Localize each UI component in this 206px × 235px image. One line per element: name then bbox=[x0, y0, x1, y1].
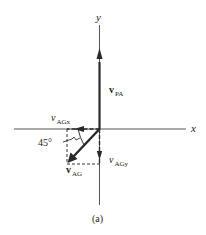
v-ag-symbol: v bbox=[66, 164, 71, 175]
v-agx-label: vAGx bbox=[51, 113, 70, 123]
x-axis-label: x bbox=[191, 123, 196, 134]
v-agy-subscript: AGy bbox=[114, 160, 128, 168]
v-ag-vector bbox=[73, 129, 100, 157]
v-agy-label: vAGy bbox=[109, 155, 128, 165]
v-agx-subscript: AGx bbox=[56, 118, 70, 126]
v-agx-symbol: v bbox=[51, 112, 55, 123]
v-pa-subscript: PA bbox=[115, 90, 123, 98]
velocity-vector-diagram bbox=[0, 0, 206, 235]
v-ag-subscript: AG bbox=[72, 170, 82, 178]
angle-leader-line bbox=[63, 137, 80, 142]
v-agy-arrowhead-icon bbox=[97, 151, 102, 160]
v-pa-arrowhead-icon bbox=[97, 48, 103, 59]
v-pa-symbol: v bbox=[109, 84, 114, 95]
angle-label: 45° bbox=[38, 138, 52, 148]
figure-caption: (a) bbox=[92, 214, 103, 224]
v-pa-label: vPA bbox=[109, 85, 123, 95]
v-ag-label: vAG bbox=[66, 165, 82, 175]
y-axis-label: y bbox=[96, 12, 101, 23]
v-agy-symbol: v bbox=[109, 154, 113, 165]
